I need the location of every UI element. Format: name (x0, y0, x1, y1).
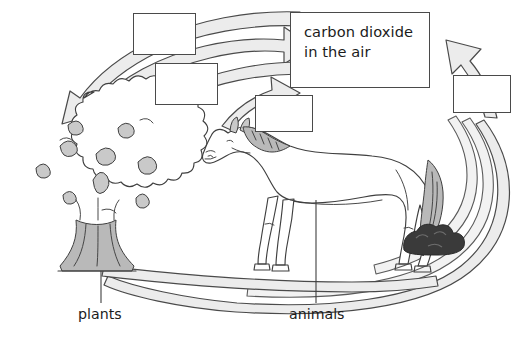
diagram-artwork: .ln{fill:none;stroke:#3f3f3f;stroke-widt… (0, 0, 526, 342)
trunk-branch-1 (76, 200, 81, 220)
leaf-cluster-6 (138, 157, 157, 175)
horse-front-leg-far (258, 196, 278, 264)
label-animals: animals (289, 306, 344, 322)
co2-line-1: carbon dioxide (304, 22, 429, 42)
carbon-cycle-diagram: .ln{fill:none;stroke:#3f3f3f;stroke-widt… (0, 0, 526, 342)
leaf-cluster-9 (136, 194, 149, 208)
answer-box-3[interactable] (255, 95, 313, 132)
leaf-cluster-8 (63, 192, 76, 205)
answer-box-1[interactable] (133, 13, 196, 55)
horse-hoof-2 (272, 265, 289, 271)
leaf-cluster-7 (36, 164, 50, 178)
tree-illustration (36, 76, 208, 271)
canopy-detail-1 (60, 138, 73, 141)
leaf-cluster-2 (96, 148, 116, 165)
answer-box-2[interactable] (155, 63, 218, 105)
trunk-branch-3 (114, 200, 119, 220)
leaf-cluster-3 (68, 121, 83, 135)
co2-line-2: in the air (304, 42, 429, 62)
leaf-cluster-1 (60, 141, 77, 157)
horse-front-leg-near (276, 199, 294, 265)
horse-body (202, 127, 434, 266)
leaf-cluster-5 (93, 172, 109, 193)
horse-hoof-1 (254, 264, 270, 270)
carbon-dioxide-box: carbon dioxide in the air (290, 12, 430, 88)
label-plants: plants (78, 306, 122, 322)
leaf-cluster-4 (118, 123, 134, 138)
answer-box-4[interactable] (453, 75, 511, 113)
